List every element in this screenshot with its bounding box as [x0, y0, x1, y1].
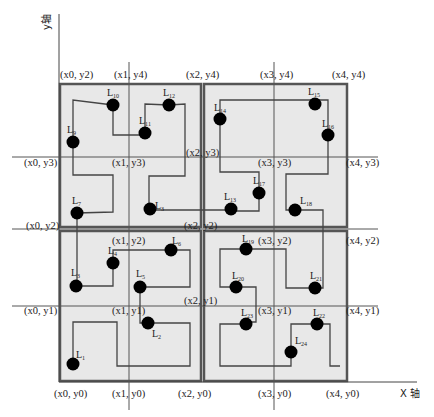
quadrant-boxes	[60, 84, 347, 381]
coord-label-x4y2: (x4, y2)	[346, 235, 380, 247]
coord-label-x3y2: (x3, y2)	[258, 235, 292, 247]
coord-label-x4y1: (x4, y1)	[346, 305, 380, 317]
coord-label-x2y4: (x2, y4)	[186, 69, 220, 81]
quadrant-top-right	[204, 84, 347, 227]
x-axis-label: X 轴	[400, 387, 420, 399]
coord-label-x3y0: (x3, y0)	[258, 388, 292, 400]
node-l13-icon	[225, 203, 238, 216]
node-l10-icon	[107, 99, 120, 112]
y-axis-label: y轴	[40, 14, 52, 30]
coord-label-x0y0: (x0, y0)	[54, 388, 88, 400]
coord-label-x2y2: (x2, y2)	[184, 220, 218, 232]
coord-label-x2y0: (x2, y0)	[178, 388, 212, 400]
coord-label-x0y3: (x0, y3)	[24, 157, 58, 169]
coord-label-x3y3: (x3, y3)	[258, 157, 292, 169]
coord-label-x3y1: (x3, y1)	[258, 305, 292, 317]
node-l7-icon	[71, 207, 84, 220]
node-l17-icon	[253, 187, 266, 200]
node-l9-icon	[67, 136, 80, 149]
coord-label-x3y4: (x3, y4)	[260, 69, 294, 81]
node-l23-icon	[240, 318, 253, 331]
coord-label-x1y0: (x1, y0)	[112, 388, 146, 400]
coord-label-x4y4: (x4, y4)	[332, 69, 366, 81]
coord-label-x1y4: (x1, y4)	[114, 69, 148, 81]
coord-label-x0y2: (x0, y2)	[26, 220, 60, 232]
node-l24-icon	[285, 346, 298, 359]
coord-label-x2y3: (x2, y3)	[186, 147, 220, 159]
coord-label-x1y3: (x1, y3)	[112, 157, 146, 169]
node-l3-icon	[70, 280, 83, 293]
coord-label-x1y2: (x1, y2)	[112, 235, 146, 247]
node-l14-icon	[214, 113, 227, 126]
node-l20-icon	[230, 281, 243, 294]
node-l15-icon	[309, 98, 322, 111]
coord-label-x4y3: (x4, y3)	[346, 157, 380, 169]
coord-label-x4y0: (x4, y0)	[326, 388, 360, 400]
node-l16-icon	[322, 129, 335, 142]
node-l12-icon	[163, 99, 176, 112]
node-l4-icon	[107, 257, 120, 270]
coord-label-x2y1: (x2, y1)	[184, 295, 218, 307]
coord-label-x0y1: (x0, y1)	[24, 305, 58, 317]
node-l5-icon	[134, 281, 147, 294]
node-l22-icon	[311, 318, 324, 331]
node-l21-icon	[309, 282, 322, 295]
mesh-grid-diagram: L1L2L3L4L5L6L7L3L9L10L11L12L13L14L15L16L…	[0, 0, 434, 417]
quadrant-top-left	[60, 84, 201, 227]
coord-label-x0y2_top: (x0, y2)	[60, 69, 94, 81]
coord-label-x1y1: (x1, y1)	[112, 305, 146, 317]
node-l11-icon	[139, 127, 152, 140]
